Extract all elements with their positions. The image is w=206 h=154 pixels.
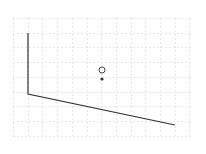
drawing-canvas[interactable] xyxy=(0,0,206,154)
hollow-circle-point[interactable] xyxy=(99,67,105,73)
filled-dot-point[interactable] xyxy=(100,77,103,80)
diagram-svg xyxy=(0,0,206,154)
